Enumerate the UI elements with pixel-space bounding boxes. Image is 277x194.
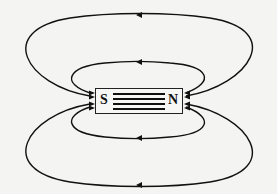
arrow-icon-n-4 (184, 106, 190, 111)
magnet-internal-line (113, 93, 165, 95)
north-pole-label: N (168, 92, 178, 108)
arrow-icon-n-3 (184, 102, 190, 107)
field-line-top-outer (26, 14, 253, 97)
magnet-internal-line (113, 103, 165, 105)
arrow-icon-n-1 (184, 91, 190, 96)
arrow-icon-top-inner (136, 59, 142, 65)
arrow-icon-bottom-inner (136, 135, 142, 141)
magnet-internal-line (113, 98, 165, 100)
magnet-internal-line (113, 108, 165, 110)
field-line-bottom-outer (26, 104, 253, 187)
south-pole-label: S (100, 92, 108, 108)
bar-magnet: S N (95, 88, 183, 114)
